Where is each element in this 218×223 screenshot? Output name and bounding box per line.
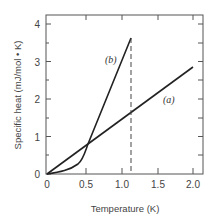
x-tick-label: 0.5 [79, 179, 93, 190]
y-tick-label: 4 [34, 19, 40, 30]
y-axis-title: Specific heat (mJ/mol • K) [12, 41, 23, 150]
series-b-label: (b) [105, 54, 117, 66]
x-tick-label: 0 [44, 179, 50, 190]
y-ticks [46, 24, 203, 174]
x-tick-label: 2.0 [186, 179, 200, 190]
series-a-label: (a) [163, 94, 175, 106]
series-b-curve [47, 38, 131, 174]
x-tick-label: 1.0 [115, 179, 129, 190]
x-ticks [86, 15, 193, 174]
x-tick-label: 1.5 [151, 179, 165, 190]
series-a-line [47, 67, 193, 174]
plot-frame [46, 15, 203, 174]
specific-heat-chart: 0 1 2 3 4 0 0.5 1.0 1.5 2.0 Temperature … [0, 0, 218, 223]
y-tick-label: 2 [34, 94, 40, 105]
x-axis-title: Temperature (K) [91, 203, 160, 214]
y-tick-label: 0 [34, 169, 40, 180]
y-tick-label: 3 [34, 57, 40, 68]
y-tick-label: 1 [34, 132, 40, 143]
